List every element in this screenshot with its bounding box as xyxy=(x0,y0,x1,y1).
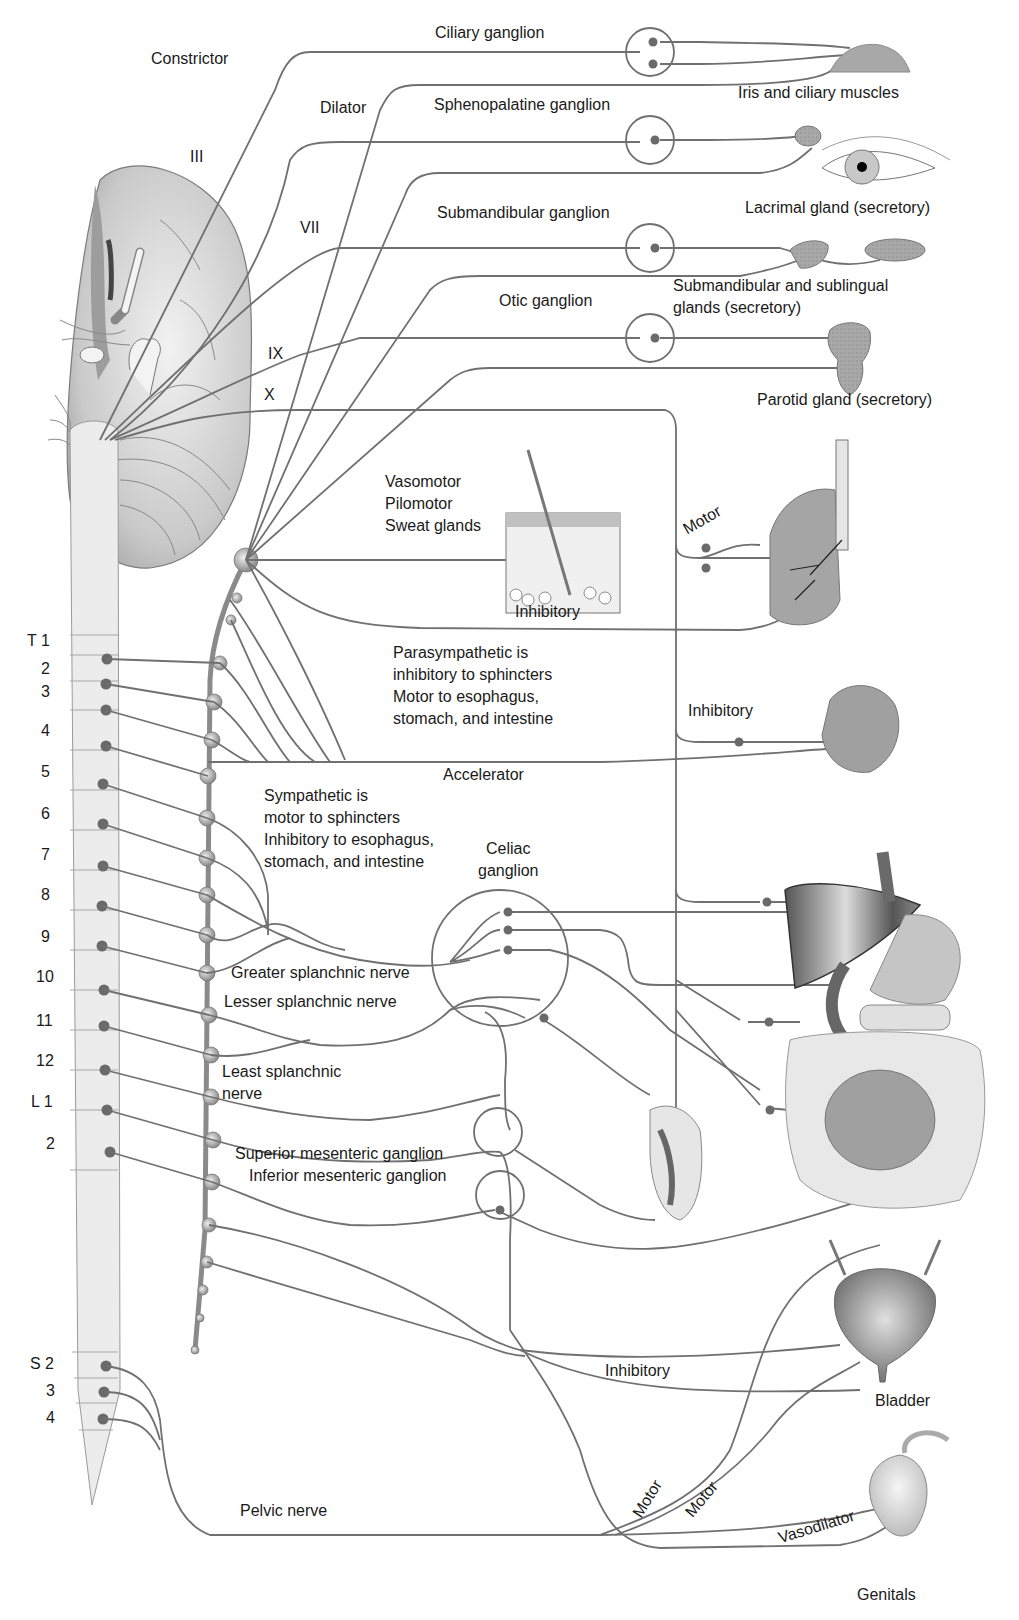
segment-t7-label: 7 xyxy=(41,844,50,866)
cranial-nerve-vii-label: VII xyxy=(300,217,320,239)
dilator-label: Dilator xyxy=(320,97,366,119)
parotid-gland-label: Parotid gland (secretory) xyxy=(757,389,932,411)
submandibular-sublingual-glands-label: Submandibular and sublingual glands (sec… xyxy=(673,275,888,319)
segment-t3-label: 3 xyxy=(41,681,50,703)
submandibular-gland-illustration xyxy=(790,241,828,268)
celiac-ganglion-label: Celiac ganglion xyxy=(478,838,539,882)
submandibular-ganglion-label: Submandibular ganglion xyxy=(437,202,610,224)
iris-illustration xyxy=(830,44,910,72)
lacrimal-gland-illustration xyxy=(795,126,821,146)
lung-illustration xyxy=(770,440,848,625)
greater-splanchnic-label: Greater splanchnic nerve xyxy=(231,962,410,984)
segment-t8-label: 8 xyxy=(41,884,50,906)
bladder-label: Bladder xyxy=(875,1390,930,1412)
sympathetic-note: Sympathetic is motor to sphincters Inhib… xyxy=(264,785,434,873)
segment-l1-label: L 1 xyxy=(31,1091,53,1113)
segment-t9-label: 9 xyxy=(41,926,50,948)
parotid-gland-illustration xyxy=(828,323,870,395)
superior-mesenteric-ganglion-label: Superior mesenteric ganglion xyxy=(235,1143,443,1165)
parasympathetic-note: Parasympathetic is inhibitory to sphinct… xyxy=(393,642,553,730)
segment-t6-label: 6 xyxy=(41,803,50,825)
skin-illustration xyxy=(506,450,620,613)
inferior-mesenteric-ganglion-label: Inferior mesenteric ganglion xyxy=(249,1165,446,1187)
segment-t2-label: 2 xyxy=(41,658,50,680)
constrictor-label: Constrictor xyxy=(151,48,228,70)
segment-s4-label: 4 xyxy=(46,1407,55,1429)
segment-t4-label: 4 xyxy=(41,720,50,742)
inhibitory-heart-label: Inhibitory xyxy=(688,700,753,722)
segment-t12-label: 12 xyxy=(36,1050,54,1072)
heart-illustration xyxy=(822,686,899,773)
segment-s2-label: S 2 xyxy=(30,1353,54,1375)
sphenopalatine-ganglion-label: Sphenopalatine ganglion xyxy=(434,94,610,116)
segment-t11-label: 11 xyxy=(36,1010,53,1032)
kidney-illustration xyxy=(650,1106,702,1220)
bladder-illustration xyxy=(830,1240,940,1382)
lesser-splanchnic-label: Lesser splanchnic nerve xyxy=(224,991,397,1013)
inhibitory-bladder-label: Inhibitory xyxy=(605,1360,670,1382)
otic-ganglion-label: Otic ganglion xyxy=(499,290,592,312)
genitals-label: Genitals xyxy=(857,1584,916,1606)
cranial-nerve-x-label: X xyxy=(264,384,275,406)
segment-t1-label: T 1 xyxy=(27,630,50,652)
accelerator-label: Accelerator xyxy=(443,764,524,786)
segment-l2-label: 2 xyxy=(46,1133,55,1155)
skin-fibers-label: Vasomotor Pilomotor Sweat glands xyxy=(385,471,481,537)
segment-s3-label: 3 xyxy=(46,1380,55,1402)
sublingual-gland-illustration xyxy=(865,239,925,261)
segment-t10-label: 10 xyxy=(36,966,54,988)
genitals-illustration xyxy=(870,1433,948,1536)
segment-t5-label: 5 xyxy=(41,761,50,783)
digestive-organs-illustration xyxy=(785,851,985,1208)
ans-diagram: Ciliary ganglion Constrictor Iris and ci… xyxy=(0,0,1019,1620)
eye-illustration xyxy=(822,137,950,184)
diagram-drawing xyxy=(0,0,1019,1620)
cranial-nerve-iii-label: III xyxy=(190,146,203,168)
least-splanchnic-label: Least splanchnic nerve xyxy=(222,1061,341,1105)
ciliary-ganglion-label: Ciliary ganglion xyxy=(435,22,544,44)
pelvic-nerve-label: Pelvic nerve xyxy=(240,1500,327,1522)
lacrimal-gland-label: Lacrimal gland (secretory) xyxy=(745,197,930,219)
cranial-nerve-ix-label: IX xyxy=(268,343,283,365)
spinal-cord xyxy=(48,395,120,1505)
inhibitory-lung-label: Inhibitory xyxy=(515,601,580,623)
iris-label: Iris and ciliary muscles xyxy=(738,82,899,104)
